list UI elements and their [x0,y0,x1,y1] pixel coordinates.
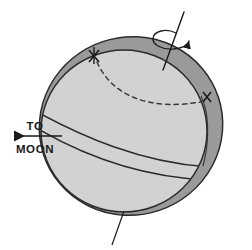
shell-leader-line [112,211,124,245]
solid-earth-sphere [41,50,207,212]
earth-tidal-diagram: TO MOON [0,0,252,250]
figure-root: TO MOON [0,0,252,250]
shell-leader-line-path [112,211,124,245]
solid-earth-outline [41,50,207,212]
to-label: TO [27,120,44,132]
moon-label: MOON [16,143,54,155]
